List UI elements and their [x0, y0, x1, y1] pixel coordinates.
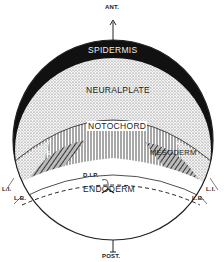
label-epidermis: SPIDERMIS [88, 45, 137, 55]
label-posterior: POST. [102, 253, 120, 259]
label-anterior: ANT. [105, 4, 119, 10]
label-lb-left: L.B. [14, 195, 26, 201]
label-mesoderm: MESODERM [150, 148, 197, 157]
label-neural-plate: NEURALPLATE [86, 85, 150, 95]
label-li-right: L.I. [206, 186, 215, 192]
label-dlp: D.I.P. [83, 172, 98, 178]
label-somite: S [46, 150, 50, 156]
label-li-left: L.I. [2, 186, 11, 192]
label-lb-right: L.B. [192, 195, 204, 201]
label-notochord: NOTOCHORD [87, 121, 147, 131]
embryo-fate-map [0, 0, 224, 262]
label-endoderm: ENDODERM [83, 184, 135, 194]
